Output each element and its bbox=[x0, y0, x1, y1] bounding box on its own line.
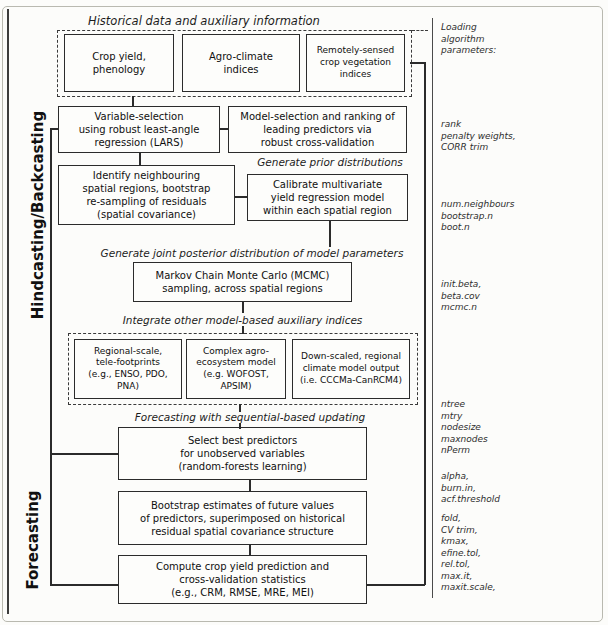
label-integrate-indices: Integrate other model-based auxiliary in… bbox=[110, 314, 375, 326]
node-climate-model-output: Down-scaled, regional climate model outp… bbox=[292, 339, 410, 399]
connector-line bbox=[249, 480, 251, 492]
label-forecast-updating: Forecasting with sequential-based updati… bbox=[120, 411, 380, 423]
annotation-header: Loading algorithm parameters: bbox=[441, 22, 601, 57]
label-generate-posterior: Generate joint posterior distribution of… bbox=[97, 247, 407, 259]
connector-line bbox=[239, 423, 241, 429]
annotation-lars-params: rank penalty weights, CORR trim bbox=[441, 119, 601, 154]
node-crop-yield-phenology: Crop yield, phenology bbox=[64, 34, 174, 92]
node-identify-neighbouring: Identify neighbouring spatial regions, b… bbox=[58, 165, 235, 225]
node-variable-selection: Variable-selection using robust least-an… bbox=[58, 106, 220, 153]
node-remote-sensing-indices: Remotely-sensed crop vegetation indices bbox=[306, 34, 405, 92]
node-mcmc-sampling: Markov Chain Monte Carlo (MCMC) sampling… bbox=[133, 262, 352, 302]
historical-data-title: Historical data and auxiliary informatio… bbox=[88, 14, 320, 28]
connector-line bbox=[50, 128, 59, 130]
connector-line bbox=[139, 152, 141, 166]
scan-edge-line bbox=[7, 9, 9, 614]
annotation-cv-params: fold, CV trim, kmax, efine.tol, rel.tol,… bbox=[441, 513, 601, 594]
node-agro-ecosystem-model: Complex agro- ecosystem model (e.g. WOFO… bbox=[186, 339, 286, 399]
connector-line bbox=[367, 584, 425, 586]
left-feedback-line bbox=[50, 128, 52, 585]
node-model-selection: Model-selection and ranking of leading p… bbox=[228, 106, 407, 153]
node-tele-footprints: Regional-scale, tele-footprints (e.g., E… bbox=[74, 339, 182, 399]
label-generate-prior: Generate prior distributions bbox=[250, 156, 410, 168]
node-agro-climate-indices: Agro-climate indices bbox=[182, 34, 300, 92]
right-feedback-line bbox=[424, 62, 426, 585]
dotted-extension bbox=[412, 30, 428, 31]
connector-line bbox=[235, 196, 247, 198]
section-label-hindcasting: Hindcasting/Backcasting bbox=[29, 111, 47, 319]
node-bootstrap-future: Bootstrap estimates of future values of … bbox=[118, 491, 367, 545]
node-compute-statistics: Compute crop yield prediction and cross-… bbox=[118, 555, 367, 604]
connector-line bbox=[242, 326, 244, 334]
connector-line bbox=[249, 544, 251, 556]
node-select-best-predictors: Select best predictors for unobserved va… bbox=[118, 427, 367, 480]
connector-line bbox=[410, 62, 425, 64]
annotation-burnin-params: alpha, burn.in, acf.threshold bbox=[441, 471, 601, 506]
annotation-bootstrap-params: num.neighbours bootstrap.n boot.n bbox=[441, 199, 601, 234]
connector-line bbox=[50, 584, 118, 586]
connector-line bbox=[242, 302, 244, 313]
connector-line bbox=[239, 404, 241, 412]
section-label-forecasting: Forecasting bbox=[24, 490, 42, 589]
node-calibrate-regression: Calibrate multivariate yield regression … bbox=[247, 174, 408, 221]
connector-line bbox=[50, 453, 118, 455]
annotation-bracket-line bbox=[432, 18, 433, 598]
annotation-random-forest-params: ntree mtry nodesize maxnodes nPerm bbox=[441, 399, 601, 457]
connector-line bbox=[329, 221, 331, 247]
flowchart-diagram: Hindcasting/Backcasting Forecasting Hist… bbox=[0, 0, 608, 625]
connector-line bbox=[220, 128, 228, 130]
annotation-mcmc-params: init.beta, beta.cov mcmc.n bbox=[441, 279, 601, 314]
connector-line bbox=[132, 96, 134, 107]
